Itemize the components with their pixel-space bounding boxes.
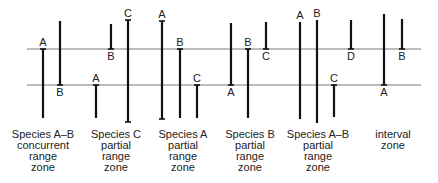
taxon-label: B — [398, 50, 405, 62]
taxon-label: A — [227, 86, 235, 98]
zone-label-line: zone — [353, 140, 433, 151]
taxon-label: B — [244, 36, 251, 48]
zone-label-line: zone — [278, 162, 358, 173]
zone-species-b-partial: ABC — [227, 22, 270, 118]
taxon-label: B — [313, 7, 320, 19]
taxon-label: A — [158, 8, 166, 20]
zone-species-a-partial: ABC — [158, 8, 201, 119]
zone-label-species-ab-concurrent: Species A–Bconcurrentrangezone — [3, 129, 83, 173]
zone-label-line: zone — [3, 162, 83, 173]
taxon-label: C — [193, 72, 201, 84]
taxon-label: B — [176, 36, 183, 48]
taxon-label: C — [330, 72, 338, 84]
zone-species-ab-partial: ABCD — [296, 7, 355, 123]
zone-label-species-ab-partial: Species A–Bpartialrangezone — [278, 129, 358, 173]
taxon-label: C — [262, 50, 270, 62]
taxon-label: A — [296, 9, 304, 21]
zone-species-c-partial: ABC — [92, 7, 132, 122]
taxon-label: A — [39, 36, 47, 48]
zone-label-interval: intervalzone — [353, 129, 433, 151]
zone-species-ab-concurrent: AB — [39, 21, 63, 118]
taxon-label: D — [347, 50, 355, 62]
taxon-label: B — [107, 50, 114, 62]
taxon-label: C — [124, 7, 132, 19]
taxon-label: B — [56, 86, 63, 98]
taxon-label: A — [92, 72, 100, 84]
taxon-label: A — [380, 86, 388, 98]
